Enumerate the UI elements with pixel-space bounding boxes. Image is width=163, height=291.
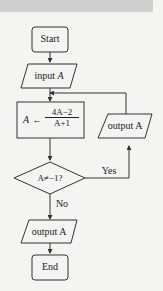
no-label: No	[54, 198, 70, 210]
yes-label: Yes	[97, 165, 121, 177]
assign-fraction: 4A−2 A+1	[45, 107, 79, 128]
input-prefix: input	[34, 70, 57, 81]
loop-output-label: output A	[100, 120, 150, 132]
start-label: Start	[32, 33, 68, 45]
decision-label: A≠−1?	[24, 172, 76, 184]
fraction-denominator: A+1	[45, 118, 79, 128]
final-output-label: output A	[24, 226, 74, 238]
input-var: A	[57, 70, 63, 81]
fraction-numerator: 4A−2	[45, 107, 79, 118]
assign-arrow: ←	[31, 114, 43, 126]
flowchart-diagram	[0, 0, 163, 291]
end-label: End	[32, 261, 68, 273]
input-label: input A	[21, 70, 77, 82]
